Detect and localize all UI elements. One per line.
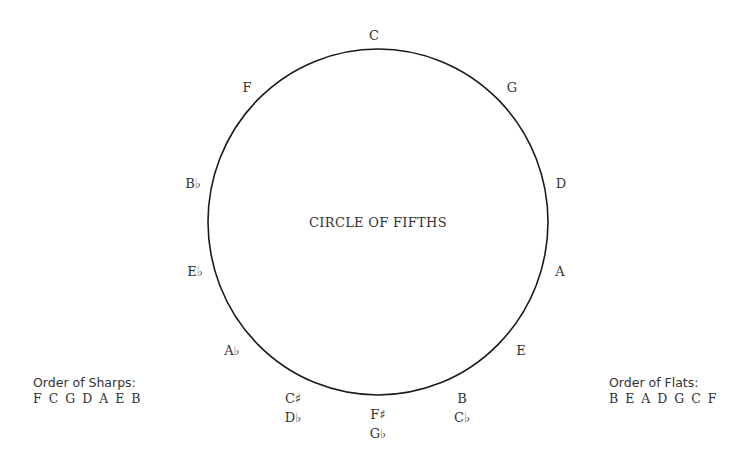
note-name: B [454, 389, 470, 408]
note-label-bflat: B♭ [185, 174, 201, 193]
note-name: C♯ [285, 389, 302, 408]
note-label-g: G [507, 78, 517, 97]
note-name: D [556, 174, 566, 193]
note-name: G♭ [370, 424, 387, 443]
note-label-aflat: A♭ [224, 341, 240, 360]
note-name: E [516, 341, 526, 360]
note-name: A [555, 262, 564, 281]
order-of-sharps-sequence: F C G D A E B [33, 391, 142, 407]
order-of-sharps: Order of Sharps: F C G D A E B [33, 375, 142, 407]
note-label-f: F [242, 78, 251, 97]
note-name: F♯ [370, 405, 387, 424]
note-name: B♭ [185, 174, 201, 193]
note-name: C♭ [454, 408, 470, 427]
note-name: G [507, 78, 517, 97]
order-of-flats-sequence: B E A D G C F [609, 391, 718, 407]
note-name: F [242, 78, 251, 97]
note-label-b-cflat: BC♭ [454, 389, 470, 427]
note-label-e: E [516, 341, 526, 360]
note-label-eflat: E♭ [187, 262, 203, 281]
diagram-title: CIRCLE OF FIFTHS [309, 215, 447, 230]
note-label-fsharp-gflat: F♯G♭ [370, 405, 387, 443]
note-label-c: C [369, 26, 379, 45]
note-name: D♭ [285, 408, 302, 427]
order-of-flats-label: Order of Flats: [609, 375, 718, 391]
note-name: A♭ [224, 341, 240, 360]
note-name: E♭ [187, 262, 203, 281]
order-of-sharps-label: Order of Sharps: [33, 375, 142, 391]
note-label-a: A [555, 262, 564, 281]
note-label-d: D [556, 174, 566, 193]
note-label-csharp-dflat: C♯D♭ [285, 389, 302, 427]
note-name: C [369, 26, 379, 45]
order-of-flats: Order of Flats: B E A D G C F [609, 375, 718, 407]
